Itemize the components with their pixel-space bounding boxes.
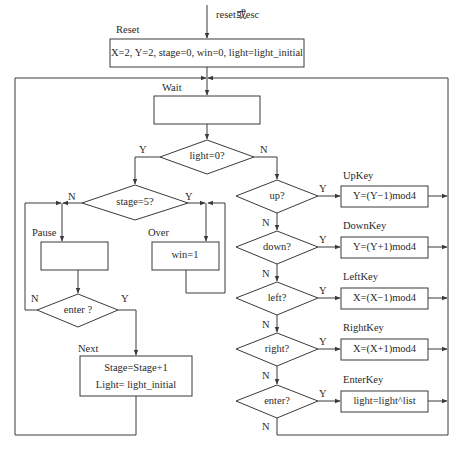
state-pause: Pause <box>32 227 108 270</box>
decision-light-zero-yes: Y <box>139 144 147 155</box>
state-enterkey-name: EnterKey <box>343 374 384 385</box>
state-enterkey: EnterKey light=light^list <box>341 374 428 412</box>
decision-pause-enter: enter ? N Y <box>31 293 129 327</box>
state-upkey-action: Y=(Y−1)mod4 <box>353 190 417 202</box>
state-next-name: Next <box>78 343 98 354</box>
state-reset-action: X=2, Y=2, stage=0, win=0, light=light_in… <box>111 47 303 58</box>
decision-pause-enter-no: N <box>31 293 39 304</box>
flowchart: reset或esc Reset X=2, Y=2, stage=0, win=0… <box>0 0 461 451</box>
decision-left-yes: Y <box>319 285 327 296</box>
decision-light-zero-label: light=0? <box>189 150 224 161</box>
decision-right: right? Y N <box>236 333 327 381</box>
state-next-action-1: Stage=Stage+1 <box>104 362 168 373</box>
state-leftkey-name: LeftKey <box>343 271 379 282</box>
state-downkey-action: Y=(Y+1)mod4 <box>353 241 417 253</box>
decision-left-no: N <box>262 319 270 330</box>
decision-light-zero-no: N <box>260 144 268 155</box>
state-leftkey-action: X=(X−1)mod4 <box>353 292 417 304</box>
decision-pause-enter-yes: Y <box>121 293 129 304</box>
state-pause-box <box>41 242 108 270</box>
state-downkey: DownKey Y=(Y+1)mod4 <box>341 220 428 258</box>
state-wait-name: Wait <box>162 82 182 93</box>
pause-enter-yes-arrow <box>118 310 136 355</box>
state-wait-box <box>154 96 260 124</box>
decision-pause-enter-label: enter ? <box>64 304 93 315</box>
decision-up: up? Y N <box>236 180 327 228</box>
decision-enter-no: N <box>262 421 270 432</box>
state-over: Over win=1 <box>148 227 219 270</box>
entry-label: reset或esc <box>216 9 260 20</box>
state-leftkey: LeftKey X=(X−1)mod4 <box>341 271 428 309</box>
state-upkey: UpKey Y=(Y−1)mod4 <box>341 170 428 207</box>
decision-up-no: N <box>262 217 270 228</box>
state-upkey-name: UpKey <box>343 170 374 181</box>
state-enterkey-action: light=light^list <box>353 395 415 406</box>
decision-enter: enter? Y N <box>236 385 327 432</box>
decision-right-yes: Y <box>319 336 327 347</box>
decision-right-label: right? <box>265 343 290 354</box>
state-rightkey-action: X=(X+1)mod4 <box>353 343 417 355</box>
decision-enter-label: enter? <box>264 395 290 406</box>
state-downkey-name: DownKey <box>343 220 387 231</box>
entry-arrow: reset或esc <box>207 5 260 38</box>
decision-left-label: left? <box>268 292 287 303</box>
state-next-action-2: Light= light_initial <box>96 379 176 390</box>
decision-left: left? Y N <box>236 282 327 330</box>
decision-down: down? Y N <box>236 231 327 279</box>
decision-down-label: down? <box>263 241 291 252</box>
state-next: Next Stage=Stage+1 Light= light_initial <box>78 343 192 396</box>
state-rightkey-name: RightKey <box>343 322 385 333</box>
decision-stage-five-no: N <box>68 191 76 202</box>
decision-up-label: up? <box>269 190 285 201</box>
decision-right-no: N <box>262 370 270 381</box>
state-over-name: Over <box>148 227 169 238</box>
decision-down-no: N <box>262 268 270 279</box>
decision-stage-five: stage=5? N Y <box>68 185 193 220</box>
decision-up-yes: Y <box>319 183 327 194</box>
state-pause-name: Pause <box>32 227 57 238</box>
decision-stage-five-yes: Y <box>185 191 193 202</box>
decision-stage-five-label: stage=5? <box>116 196 154 207</box>
state-over-action: win=1 <box>172 249 199 260</box>
light-yes-arrow <box>135 157 160 184</box>
light-no-arrow <box>254 157 277 179</box>
state-rightkey: RightKey X=(X+1)mod4 <box>341 322 428 360</box>
decision-down-yes: Y <box>319 234 327 245</box>
decision-enter-yes: Y <box>319 388 327 399</box>
state-reset-name: Reset <box>116 24 139 35</box>
